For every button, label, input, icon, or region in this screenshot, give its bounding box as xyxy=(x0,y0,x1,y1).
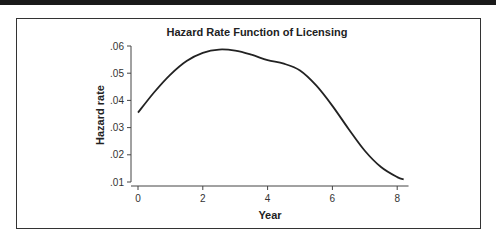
y-tick-label: .06 xyxy=(110,41,124,52)
x-tick-label: 8 xyxy=(394,193,400,204)
chart-title: Hazard Rate Function of Licensing xyxy=(167,26,348,38)
y-axis-label: Hazard rate xyxy=(94,85,106,145)
y-tick-label: .01 xyxy=(110,177,124,188)
y-tick-label: .02 xyxy=(110,149,124,160)
x-axis-label: Year xyxy=(258,209,282,221)
y-tick-label: .03 xyxy=(110,122,124,133)
axes: .01.02.03.04.05.0602468 xyxy=(110,41,408,205)
hazard-rate-chart: Hazard Rate Function of Licensing .01.02… xyxy=(0,0,496,243)
x-tick-label: 4 xyxy=(265,193,271,204)
x-tick-label: 0 xyxy=(135,193,141,204)
y-tick-label: .04 xyxy=(110,95,124,106)
y-tick-label: .05 xyxy=(110,68,124,79)
hazard-rate-line xyxy=(138,49,404,179)
x-tick-label: 2 xyxy=(200,193,206,204)
x-tick-label: 6 xyxy=(330,193,336,204)
